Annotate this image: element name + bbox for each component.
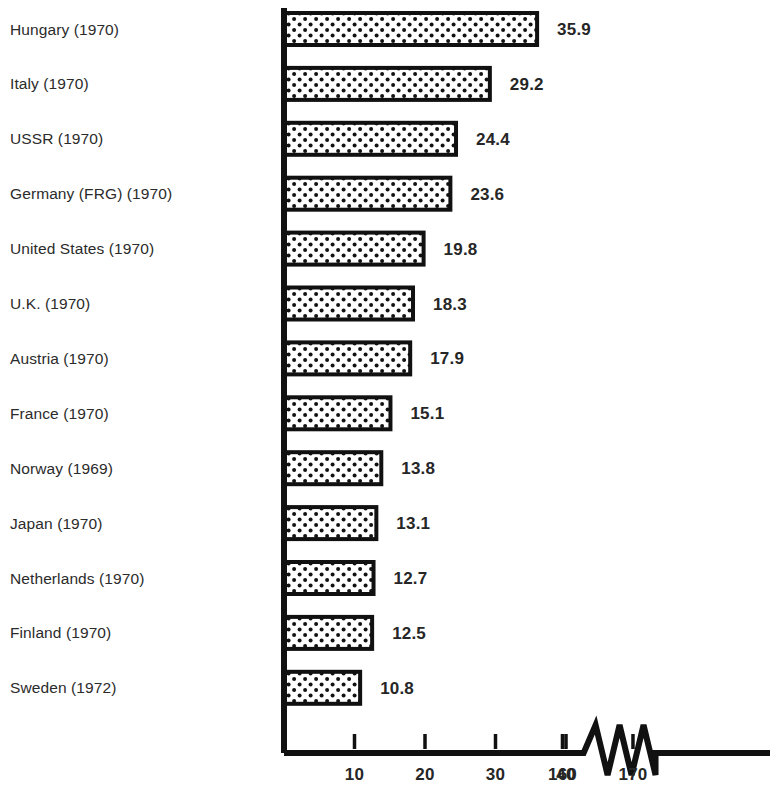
bar-chart: Hungary (1970)Italy (1970)USSR (1970)Ger… (0, 0, 770, 793)
value-label: 12.7 (394, 569, 428, 588)
category-label: Netherlands (1970) (10, 570, 145, 587)
x-tick-label: 10 (345, 765, 364, 784)
category-label: France (1970) (10, 405, 109, 422)
category-label: Italy (1970) (10, 75, 89, 92)
bar (284, 342, 410, 374)
category-label: Sweden (1972) (10, 679, 116, 696)
bar (284, 562, 374, 594)
bar (284, 672, 360, 704)
category-label: Japan (1970) (10, 515, 103, 532)
bar (284, 13, 537, 45)
category-label: Norway (1969) (10, 460, 113, 477)
category-label: Hungary (1970) (10, 21, 119, 38)
value-label: 10.8 (380, 679, 414, 698)
category-label: U.K. (1970) (10, 295, 90, 312)
value-label: 13.8 (401, 459, 435, 478)
x-tick-label: 170 (618, 765, 647, 784)
category-label: Finland (1970) (10, 624, 111, 641)
x-tick-label: 160 (548, 765, 577, 784)
category-label: Germany (FRG) (1970) (10, 185, 172, 202)
value-label: 19.8 (444, 240, 478, 259)
value-label: 13.1 (396, 514, 430, 533)
value-label: 29.2 (510, 75, 544, 94)
x-tick-label: 30 (486, 765, 505, 784)
bar (284, 233, 424, 265)
category-label: United States (1970) (10, 240, 154, 257)
bar (284, 123, 456, 155)
value-label: 24.4 (476, 130, 510, 149)
value-label: 12.5 (392, 624, 426, 643)
bar (284, 178, 450, 210)
value-label: 23.6 (470, 185, 504, 204)
category-label: Austria (1970) (10, 350, 109, 367)
bar (284, 617, 372, 649)
value-label: 35.9 (557, 20, 591, 39)
value-label: 17.9 (430, 349, 464, 368)
x-tick-label: 20 (415, 765, 434, 784)
value-label: 15.1 (410, 404, 444, 423)
category-label: USSR (1970) (10, 130, 103, 147)
bar (284, 288, 413, 320)
bar (284, 507, 376, 539)
bar (284, 397, 390, 429)
value-label: 18.3 (433, 295, 467, 314)
bar (284, 452, 381, 484)
bar (284, 68, 490, 100)
